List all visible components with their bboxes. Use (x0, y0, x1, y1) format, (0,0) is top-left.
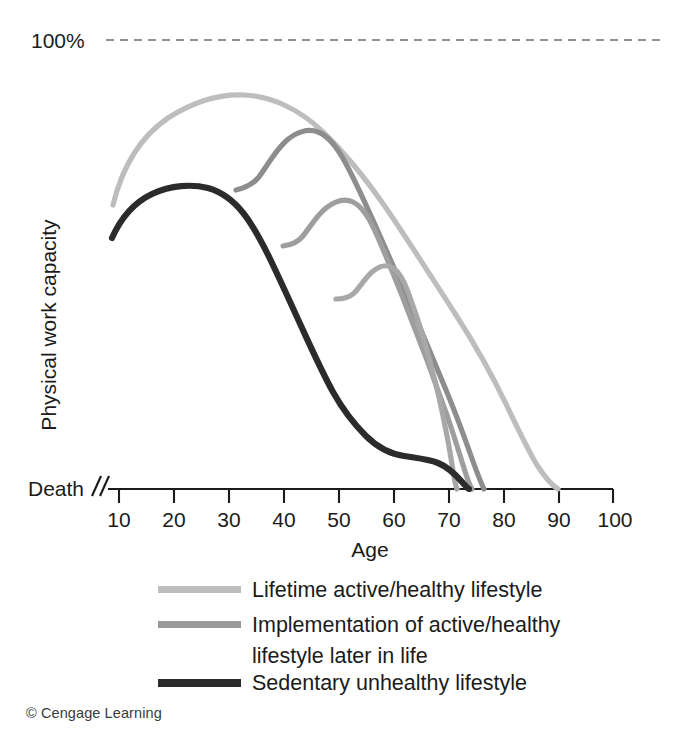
x-tick-label-10: 10 (107, 508, 130, 531)
legend-item-lifetime[interactable]: Lifetime active/healthy lifestyle (158, 578, 542, 602)
x-tick-label-50: 50 (327, 508, 350, 531)
series-line-lifetime-active (113, 95, 558, 489)
label-death: Death (28, 477, 84, 500)
x-axis-title: Age (351, 538, 388, 561)
legend-swatch-lifetime (158, 586, 241, 593)
legend-swatch-sedentary (158, 679, 241, 687)
legend-item-sedentary[interactable]: Sedentary unhealthy lifestyle (158, 671, 527, 695)
x-tick-label-40: 40 (272, 508, 295, 531)
legend-label-lifetime: Lifetime active/healthy lifestyle (252, 578, 542, 602)
x-tick-label-60: 60 (382, 508, 405, 531)
x-tick-label-90: 90 (547, 508, 570, 531)
y-axis-title: Physical work capacity (37, 219, 60, 431)
x-tick-label-20: 20 (162, 508, 185, 531)
figure-container: 10 20 30 40 50 60 70 80 90 100 100% Deat… (0, 0, 677, 744)
x-tick-label-30: 30 (217, 508, 240, 531)
label-100-percent: 100% (31, 29, 85, 52)
chart-canvas: 10 20 30 40 50 60 70 80 90 100 100% Deat… (0, 0, 677, 744)
x-tick-label-80: 80 (492, 508, 515, 531)
x-axis-ticks (119, 489, 613, 503)
legend-label-implementation-line2: lifestyle later in life (252, 644, 428, 668)
legend-label-sedentary: Sedentary unhealthy lifestyle (252, 671, 527, 695)
x-tick-label-100: 100 (597, 508, 632, 531)
x-tick-label-70: 70 (437, 508, 460, 531)
copyright-credit: © Cengage Learning (26, 705, 162, 721)
axis-break-icon (92, 476, 109, 496)
chart-legend: Lifetime active/healthy lifestyle Implem… (158, 578, 561, 695)
legend-label-implementation-line1: Implementation of active/healthy (252, 613, 561, 637)
legend-swatch-implementation (158, 621, 241, 628)
legend-item-implementation[interactable]: Implementation of active/healthy lifesty… (158, 613, 561, 668)
